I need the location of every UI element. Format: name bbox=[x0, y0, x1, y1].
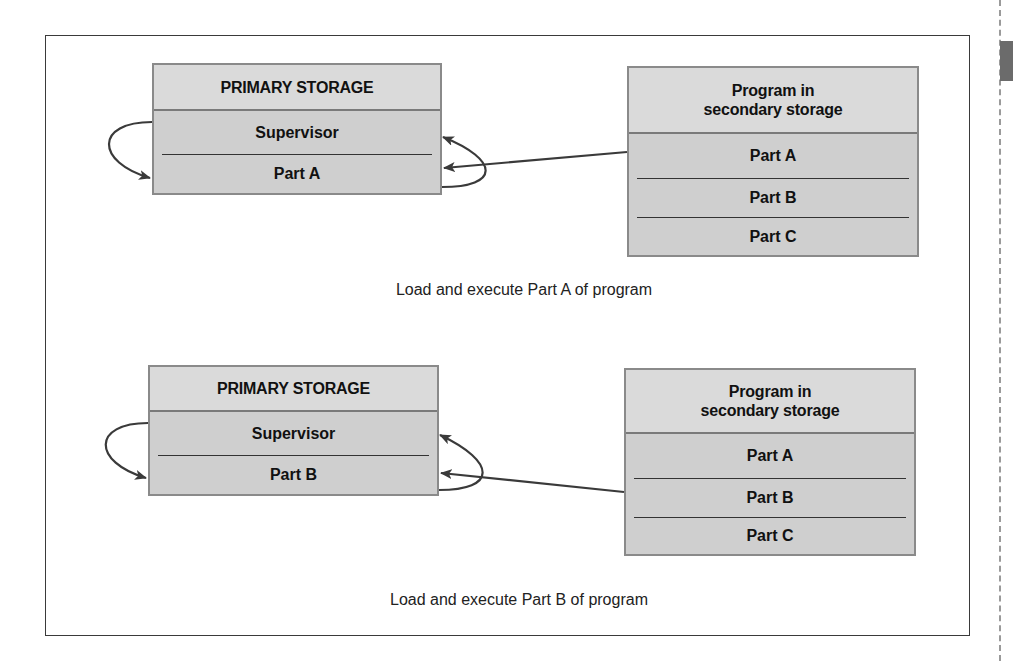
secondary-row-part-c: Part C bbox=[626, 518, 914, 554]
secondary-storage-title: Program in secondary storage bbox=[629, 68, 917, 134]
primary-storage-title: PRIMARY STORAGE bbox=[150, 367, 437, 412]
caption-2: Load and execute Part B of program bbox=[390, 591, 648, 609]
secondary-title-line2: secondary storage bbox=[704, 100, 843, 119]
secondary-title-line1: Program in bbox=[729, 382, 811, 401]
primary-storage-title: PRIMARY STORAGE bbox=[154, 65, 440, 111]
secondary-storage-box-1: Program in secondary storage Part A Part… bbox=[627, 66, 919, 257]
secondary-row-part-b: Part B bbox=[626, 479, 914, 517]
primary-row-part: Part A bbox=[154, 155, 440, 193]
primary-row-supervisor: Supervisor bbox=[154, 111, 440, 155]
page-side-tab bbox=[1000, 41, 1013, 81]
secondary-title-line1: Program in bbox=[732, 81, 814, 100]
secondary-row-part-c: Part C bbox=[629, 218, 917, 255]
secondary-row-part-a: Part A bbox=[629, 134, 917, 178]
caption-1: Load and execute Part A of program bbox=[396, 281, 652, 299]
secondary-row-part-a: Part A bbox=[626, 434, 914, 478]
secondary-title-line2: secondary storage bbox=[701, 401, 840, 420]
secondary-row-part-b: Part B bbox=[629, 179, 917, 217]
primary-storage-box-1: PRIMARY STORAGE Supervisor Part A bbox=[152, 63, 442, 195]
secondary-storage-title: Program in secondary storage bbox=[626, 370, 914, 434]
page-margin-dashed-line bbox=[999, 0, 1001, 661]
primary-storage-box-2: PRIMARY STORAGE Supervisor Part B bbox=[148, 365, 439, 496]
secondary-storage-box-2: Program in secondary storage Part A Part… bbox=[624, 368, 916, 556]
primary-row-supervisor: Supervisor bbox=[150, 412, 437, 456]
primary-row-part: Part B bbox=[150, 456, 437, 494]
